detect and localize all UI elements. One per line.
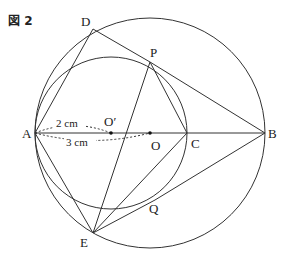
label-o: O xyxy=(151,138,160,153)
label-3cm: 3 cm xyxy=(66,136,88,148)
label-q: Q xyxy=(149,201,159,216)
label-d: D xyxy=(81,14,90,29)
label-c: C xyxy=(191,136,200,151)
label-2cm: 2 cm xyxy=(56,117,78,129)
figure-label: 図 2 xyxy=(8,14,33,28)
segment-ce xyxy=(93,133,187,233)
label-o-prime: O′ xyxy=(104,114,116,129)
label-p: P xyxy=(150,45,157,60)
segment-pc xyxy=(150,62,187,133)
point-o-prime xyxy=(109,131,113,135)
label-a: A xyxy=(22,126,32,141)
geometry-diagram: 図 2 2 cm 3 cm A B C D E O O′ P Q xyxy=(0,0,289,263)
point-o xyxy=(148,131,152,135)
label-b: B xyxy=(268,126,277,141)
label-e: E xyxy=(80,235,88,250)
